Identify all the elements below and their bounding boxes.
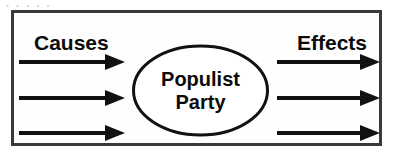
node-line-1: Populist: [161, 68, 240, 90]
effect-arrow-2: [277, 90, 380, 106]
clipped-header-remnant: . . . . .: [0, 0, 394, 7]
cause-arrow-2: [19, 90, 125, 106]
cause-effect-diagram: . . . . . Causes Effects Populist: [0, 0, 394, 158]
effect-arrow-3: [277, 125, 380, 141]
effect-arrow-1: [277, 54, 380, 70]
cause-arrow-3: [19, 125, 125, 141]
populist-party-label: Populist Party: [131, 44, 270, 137]
causes-heading: Causes: [34, 32, 109, 53]
effects-heading: Effects: [297, 32, 367, 53]
cause-arrow-1: [19, 54, 125, 70]
populist-party-node: Populist Party: [131, 44, 270, 137]
node-line-2: Party: [175, 91, 225, 113]
